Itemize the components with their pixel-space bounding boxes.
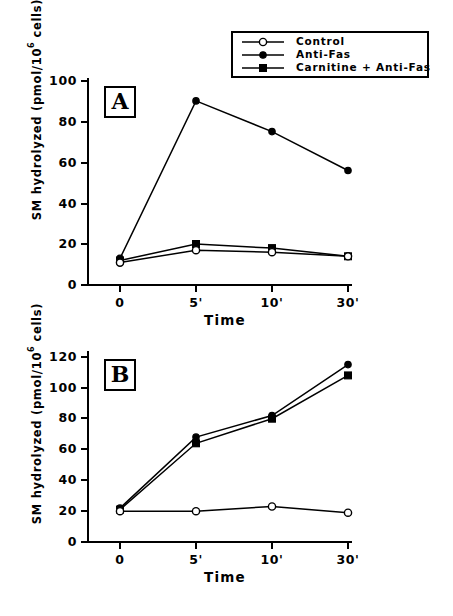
panel-a-xtick-label-0: 0 [105, 295, 135, 310]
panel-b-ytick-label-120: 120 [47, 349, 77, 364]
panel-b-series-control [120, 507, 348, 513]
panel-b: SM hydrolyzed (pmol/106 cells) [0, 316, 453, 616]
panel-b-ytick-label-80: 80 [47, 410, 77, 425]
panel-b-ytick-label-40: 40 [47, 472, 77, 487]
panel-a-point-control-1 [192, 247, 199, 254]
panel-a-ytick-label-100: 100 [47, 73, 77, 88]
panel-a-point-anti-fas-2 [269, 128, 275, 134]
panel-b-point-anti-fas-3 [345, 361, 351, 367]
panel-a-ytick-label-0: 0 [47, 277, 77, 292]
panel-a-point-anti-fas-1 [193, 98, 199, 104]
panel-b-point-carnitine-3 [345, 372, 352, 379]
panel-b-point-carnitine-1 [193, 440, 200, 447]
panel-a-point-control-2 [268, 249, 275, 256]
panel-b-point-control-1 [192, 508, 199, 515]
panel-b-point-control-0 [116, 508, 123, 515]
panel-a-point-control-3 [344, 253, 351, 260]
panel-b-xtick-label-0: 0 [105, 552, 135, 567]
figure-root: Control Anti-Fas Carnitine + Anti-Fas SM… [0, 0, 453, 616]
panel-a-point-control-0 [116, 259, 123, 266]
panel-b-series-anti-fas [120, 365, 348, 509]
panel-a-xtick-label-10: 10' [257, 295, 287, 310]
panel-a-ytick-label-40: 40 [47, 196, 77, 211]
panel-a-xtick-label-5: 5' [181, 295, 211, 310]
panel-b-xtick-label-10: 10' [257, 552, 287, 567]
panel-a-ytick-label-80: 80 [47, 114, 77, 129]
panel-a-ytick-label-20: 20 [47, 236, 77, 251]
panel-b-letter: B [105, 361, 135, 387]
panel-b-x-axis-title: Time [165, 569, 285, 585]
panel-b-point-carnitine-2 [269, 415, 276, 422]
panel-a: SM hydrolyzed (pmol/106 cells) [0, 0, 453, 320]
panel-b-xtick-label-30: 30' [333, 552, 363, 567]
panel-b-ytick-label-20: 20 [47, 503, 77, 518]
panel-a-ytick-label-60: 60 [47, 155, 77, 170]
panel-a-series-carnitine-anti-fas [120, 244, 348, 261]
panel-b-ytick-label-100: 100 [47, 380, 77, 395]
panel-b-point-control-2 [268, 503, 275, 510]
panel-b-point-control-3 [344, 509, 351, 516]
panel-b-ytick-label-60: 60 [47, 441, 77, 456]
panel-a-letter: A [105, 88, 135, 114]
panel-a-xtick-label-30: 30' [333, 295, 363, 310]
panel-b-series-carnitine-anti-fas [120, 375, 348, 509]
panel-b-ytick-label-0: 0 [47, 534, 77, 549]
panel-b-xtick-label-5: 5' [181, 552, 211, 567]
panel-a-series-anti-fas [120, 101, 348, 259]
panel-a-point-anti-fas-3 [345, 167, 351, 173]
